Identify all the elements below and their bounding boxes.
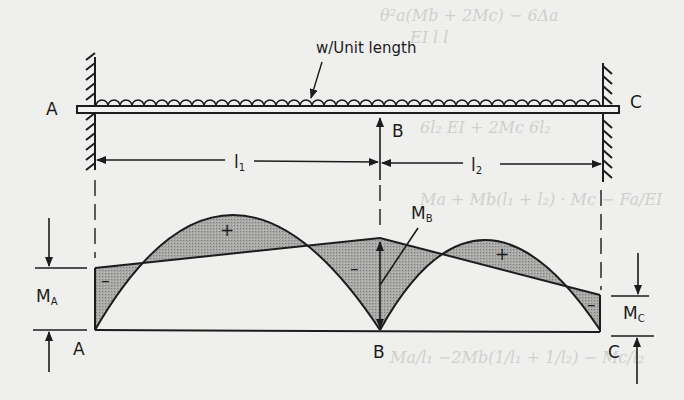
beam-diagram-svg — [0, 0, 684, 400]
beam — [77, 106, 619, 113]
label-b-bmd: B — [373, 344, 385, 361]
span-l1-label: l1 — [234, 154, 245, 173]
label-c-bmd: C — [608, 344, 620, 361]
load-label: w/Unit length — [316, 41, 416, 56]
mc-label: MC — [623, 305, 645, 324]
sign-span2-mid: + — [495, 246, 509, 263]
span-l2-label: l2 — [471, 157, 482, 176]
dimension-l2 — [382, 163, 601, 164]
sign-span2-right: – — [587, 296, 596, 313]
load-leader-arrow-icon — [311, 62, 322, 98]
fixed-support-c-icon — [603, 63, 612, 182]
label-a-bmd: A — [73, 341, 85, 358]
mb-label: MB — [411, 205, 433, 224]
sign-support-b: – — [350, 260, 359, 277]
label-c-beam: C — [630, 94, 642, 111]
figure-canvas: θ²a(Mb + 2Mc) − 6Δa EI l l 6l₂ EI + 2Mc … — [0, 0, 684, 400]
sign-span1-mid: + — [220, 222, 234, 239]
label-b-beam: B — [392, 123, 404, 140]
sign-span1-left: – — [101, 272, 110, 289]
label-a-beam: A — [46, 101, 58, 118]
ma-label: MA — [36, 288, 58, 307]
bending-moment-diagram — [95, 215, 600, 332]
